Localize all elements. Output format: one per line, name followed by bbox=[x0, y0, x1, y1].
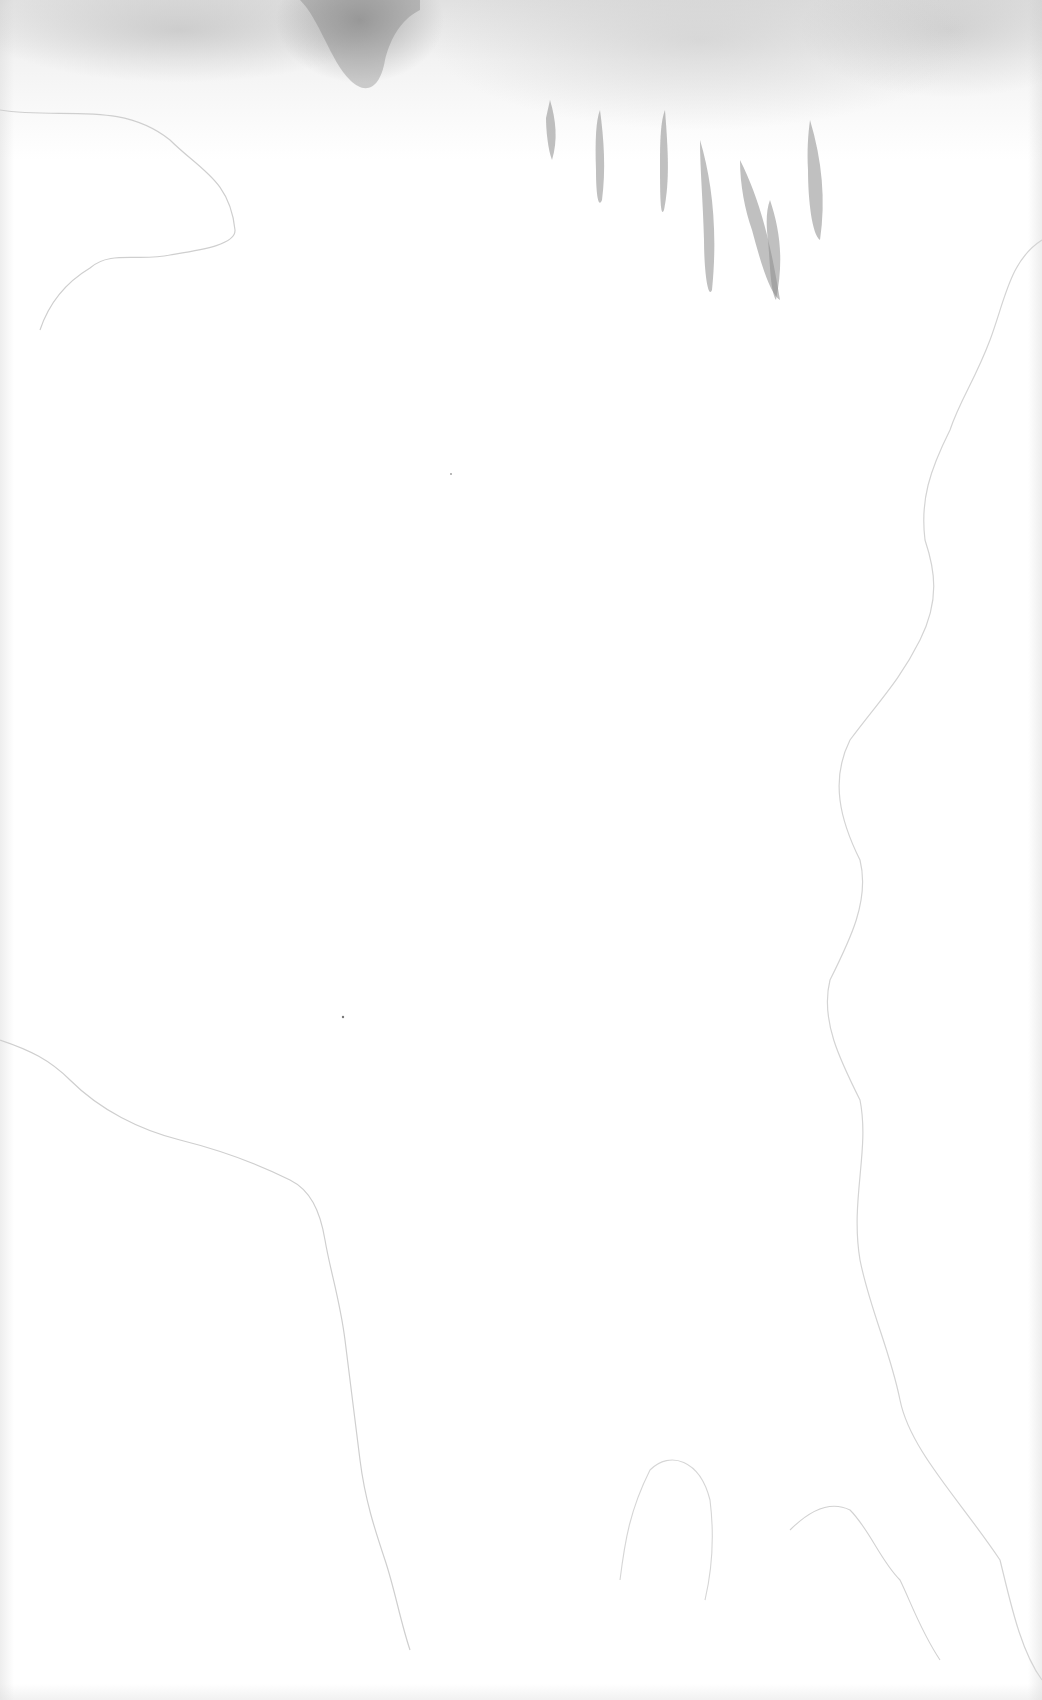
stain-bottom-right-hill bbox=[790, 1506, 940, 1660]
speck bbox=[342, 1016, 344, 1018]
stain-left-lower-edge bbox=[0, 1040, 410, 1650]
stain-top-left-edge bbox=[0, 110, 235, 330]
stain-top-dark-drip bbox=[300, 0, 420, 88]
speck bbox=[450, 473, 452, 475]
stain-bottom-arch bbox=[620, 1460, 712, 1600]
stain-top-right-drips bbox=[546, 100, 823, 300]
watercolor-stains bbox=[0, 0, 1042, 1700]
stain-right-edge bbox=[827, 240, 1042, 1680]
